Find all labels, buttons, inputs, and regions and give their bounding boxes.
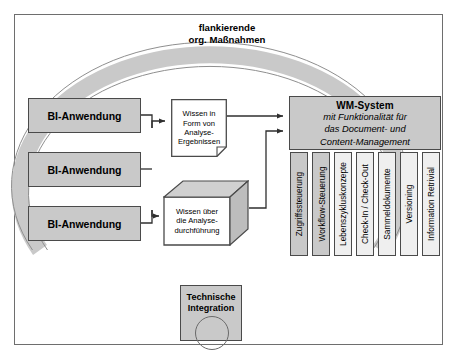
capability-column-zugriffssteuerung[interactable]: Zugriffssteuerung — [290, 152, 308, 256]
capability-column-check-in-check-out[interactable]: Check-In / Check-Out — [356, 152, 374, 256]
bi-application-box-1[interactable]: BI-Anwendung — [28, 98, 141, 133]
technical-integration-line-1: Technische — [187, 292, 236, 303]
technical-integration-line-2: Integration — [188, 303, 235, 314]
knowledge-cube-label: Wissen über die Analyse- durchführung — [165, 198, 229, 244]
capability-column-information-retrivial[interactable]: Information Retrivial — [422, 152, 440, 256]
capability-label: Lebenszykluskonzepte — [338, 162, 348, 246]
cube-line-3: durchführung — [175, 226, 220, 235]
technical-integration-box[interactable]: Technische Integration — [180, 285, 242, 341]
capability-label: Check-In / Check-Out — [360, 164, 370, 244]
wm-system-title: WM-System — [336, 100, 394, 111]
doc-line-2: Form von — [183, 119, 215, 128]
knowledge-document-label: Wissen in Form von Analyse- Ergebnissen — [171, 99, 227, 157]
wm-system-subtitle-3: Content-Management — [320, 137, 410, 149]
bi-application-label: BI-Anwendung — [47, 110, 121, 122]
bi-application-label: BI-Anwendung — [47, 218, 121, 230]
wm-system-box[interactable]: WM-System mit Funktionalität für das Doc… — [289, 96, 441, 150]
knowledge-cube-shape[interactable]: Wissen über die Analyse- durchführung — [163, 180, 249, 246]
capability-column-workflow-steuerung[interactable]: Workflow-Steuerung — [312, 152, 330, 256]
bi-application-box-3[interactable]: BI-Anwendung — [28, 206, 141, 241]
doc-line-1: Wissen in — [183, 109, 216, 118]
integration-circle-icon — [195, 316, 229, 350]
knowledge-document-shape[interactable]: Wissen in Form von Analyse- Ergebnissen — [171, 99, 227, 157]
wm-system-subtitle-2: das Document- und — [324, 124, 405, 136]
doc-line-4: Ergebnissen — [178, 137, 220, 146]
capability-column-sammeldokumente[interactable]: Sammeldokumente — [378, 152, 396, 256]
capability-column-versioning[interactable]: Versioning — [400, 152, 418, 256]
diagram-canvas: flankierende org. Maßnahmen BI-Anwendung — [0, 0, 458, 362]
bi-application-box-2[interactable]: BI-Anwendung — [28, 152, 141, 187]
doc-line-3: Analyse- — [184, 128, 214, 137]
cube-line-2: die Analyse- — [176, 216, 217, 225]
capability-label: Information Retrivial — [426, 167, 436, 241]
wm-system-subtitle-1: mit Funktionalität für — [323, 112, 407, 124]
capability-label: Sammeldokumente — [382, 168, 392, 239]
capability-label: Zugriffssteuerung — [294, 172, 304, 236]
capability-label: Workflow-Steuerung — [316, 166, 326, 241]
bi-application-label: BI-Anwendung — [47, 164, 121, 176]
capability-label: Versioning — [404, 185, 414, 224]
cube-line-1: Wissen über — [176, 207, 218, 216]
capability-column-lebenszykluskonzepte[interactable]: Lebenszykluskonzepte — [334, 152, 352, 256]
